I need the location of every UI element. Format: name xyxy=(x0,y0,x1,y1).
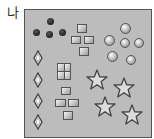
square-icon xyxy=(61,87,71,95)
square-icon xyxy=(55,99,66,107)
dot-icon xyxy=(33,29,40,36)
square-icon xyxy=(71,36,81,44)
star-icon xyxy=(86,69,108,90)
sphere-icon xyxy=(126,55,136,65)
square-icon xyxy=(77,24,87,33)
star-icon xyxy=(113,77,135,98)
sphere-icon xyxy=(107,51,118,62)
dot-icon xyxy=(46,31,53,38)
sphere-icon xyxy=(134,38,144,48)
square-icon xyxy=(79,47,89,56)
star-icon xyxy=(94,96,116,117)
diamond-icon xyxy=(33,50,43,66)
sphere-icon xyxy=(104,35,115,46)
sphere-icon xyxy=(120,23,131,34)
diamond-icon xyxy=(33,114,43,130)
grid-square-icon xyxy=(57,63,71,80)
diamond-icon xyxy=(33,93,43,109)
star-icon xyxy=(121,104,143,125)
diamond-icon xyxy=(33,72,43,88)
square-icon xyxy=(63,111,73,120)
square-icon xyxy=(68,99,79,107)
sphere-icon xyxy=(120,38,130,48)
square-icon xyxy=(84,36,94,44)
dot-icon xyxy=(47,18,54,25)
panel-label: 나 xyxy=(7,6,19,19)
dot-icon xyxy=(59,29,66,36)
